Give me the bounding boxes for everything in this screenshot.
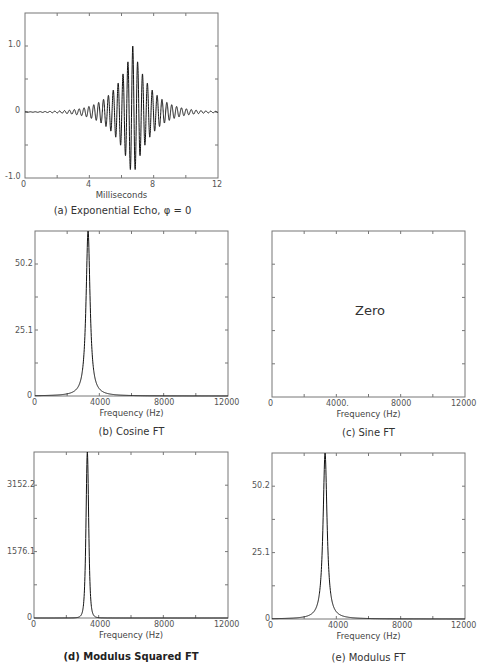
- panel-a-exponential-echo: 1.0 0 -1.0 0 4 8 12 Milliseconds (a) Exp…: [0, 0, 260, 220]
- y-tick-label: 1.0: [8, 41, 21, 49]
- y-tick-label: 0: [15, 107, 20, 115]
- y-tick-label: -1.0: [5, 173, 21, 181]
- panel-caption: (d) Modulus Squared FT: [34, 651, 228, 662]
- cosine-ft-curve: [35, 231, 228, 396]
- x-tick-label: 0: [268, 622, 273, 630]
- x-tick-label: 8000: [154, 621, 174, 629]
- x-tick-label: 12: [212, 181, 222, 189]
- panel-caption: (a) Exponential Echo, φ = 0: [0, 205, 245, 216]
- y-tick-label: 25.1: [15, 327, 33, 335]
- y-tick-label: 0: [265, 615, 270, 623]
- x-axis-label: Frequency (Hz): [272, 409, 465, 419]
- x-axis-label: Frequency (Hz): [35, 408, 228, 418]
- x-axis-label: Frequency (Hz): [34, 630, 228, 640]
- modulus-ft-curve: [272, 453, 465, 619]
- y-tick-label: 50.2: [252, 482, 270, 490]
- x-tick-label: 0: [21, 181, 26, 189]
- x-tick-label: 4000.: [326, 400, 349, 408]
- x-tick-label: 4000: [328, 622, 348, 630]
- y-tick-label: 0: [27, 614, 32, 622]
- x-tick-label: 8: [150, 181, 155, 189]
- x-tick-label: 12000: [451, 622, 476, 630]
- y-tick-label: 25.1: [252, 549, 270, 557]
- x-tick-label: 12000: [214, 399, 239, 407]
- x-tick-label: 0: [32, 399, 37, 407]
- echo-waveform: [25, 46, 218, 170]
- y-tick-label: 50.2: [15, 260, 33, 268]
- x-tick-label: 8000: [392, 622, 412, 630]
- x-tick-label: 4000: [90, 399, 110, 407]
- x-tick-label: 8000: [391, 400, 411, 408]
- panel-caption: (b) Cosine FT: [35, 426, 228, 437]
- x-tick-label: 4000: [90, 621, 110, 629]
- y-tick-label: 3152.2: [7, 481, 35, 489]
- zero-annotation: Zero: [355, 303, 385, 318]
- x-tick-label: 0: [31, 621, 36, 629]
- y-tick-label: 1576.1: [7, 548, 35, 556]
- x-tick-label: 0: [268, 400, 273, 408]
- x-tick-label: 4: [86, 181, 91, 189]
- x-axis-label: Frequency (Hz): [272, 631, 465, 641]
- x-tick-label: 8000: [154, 399, 174, 407]
- panel-caption: (c) Sine FT: [272, 427, 465, 438]
- x-tick-label: 12000: [214, 621, 239, 629]
- x-tick-label: 12000: [451, 400, 476, 408]
- y-tick-label: 0: [27, 392, 32, 400]
- modulus-squared-ft-curve: [34, 452, 228, 618]
- x-axis-label: Milliseconds: [25, 190, 218, 200]
- panel-caption: (e) Modulus FT: [272, 652, 465, 663]
